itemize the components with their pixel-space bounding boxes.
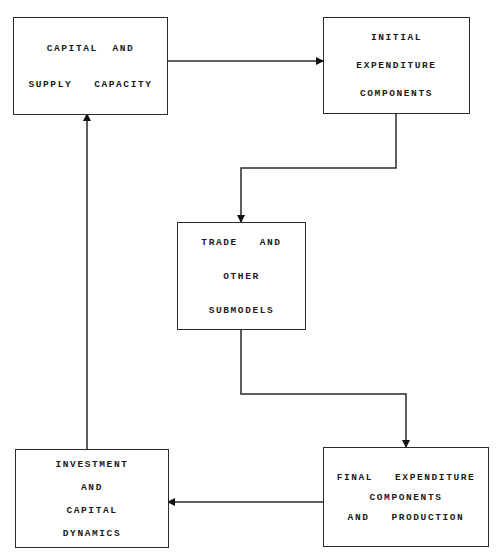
node-label-line: OTHER xyxy=(223,271,260,282)
node-trade-and-other-submodels: TRADE AND OTHER SUBMODELS xyxy=(177,222,306,330)
node-label-line: AND xyxy=(81,482,103,493)
node-investment-and-capital-dynamics: INVESTMENT AND CAPITAL DYNAMICS xyxy=(15,449,169,548)
node-label-line: TRADE AND xyxy=(201,237,281,248)
node-capital-supply-capacity: CAPITAL AND SUPPLY CAPACITY xyxy=(13,17,168,115)
node-label-line: FINAL EXPENDITURE xyxy=(337,472,476,483)
node-label-line: INVESTMENT xyxy=(55,459,128,470)
node-label-line: SUBMODELS xyxy=(209,305,275,316)
node-label-line: COMPONENTS xyxy=(369,492,442,503)
node-label-line: EXPENDITURE xyxy=(356,60,436,71)
node-final-expenditure-components-and-production: FINAL EXPENDITURE COMPONENTS AND PRODUCT… xyxy=(323,447,489,547)
node-label-line: INITIAL xyxy=(371,32,422,43)
node-label-line: DYNAMICS xyxy=(63,528,121,539)
arrow-initial-to-trade xyxy=(241,113,396,222)
node-label-line: SUPPLY CAPACITY xyxy=(28,79,152,90)
node-label-line: AND PRODUCTION xyxy=(348,512,465,523)
node-label-line: CAPITAL AND xyxy=(47,43,135,54)
node-label-line: CAPITAL xyxy=(66,505,117,516)
node-initial-expenditure-components: INITIAL EXPENDITURE COMPONENTS xyxy=(323,17,470,114)
node-label-line: COMPONENTS xyxy=(360,88,433,99)
arrow-trade-to-final xyxy=(241,329,406,447)
